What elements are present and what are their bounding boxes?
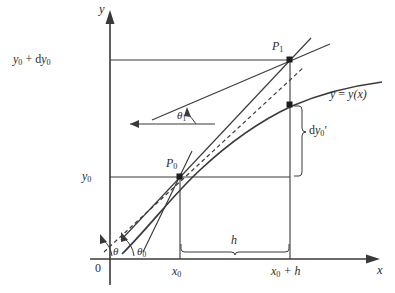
y-tick-label-lower: y0	[82, 170, 91, 184]
secant-line-p0-p1	[121, 38, 311, 240]
angle-theta-zero-sub: 0	[142, 250, 146, 259]
brace-label-dy-zero-prime: dy0′	[309, 124, 327, 138]
origin-label: 0	[95, 262, 101, 274]
point-marker-q	[287, 102, 293, 108]
y-axis-arrowhead	[106, 10, 115, 24]
y-axis-label: y	[99, 3, 105, 16]
angle-theta-one-sub: 1	[182, 114, 186, 123]
angle-label-theta-zero: θ0	[137, 246, 146, 259]
brace-dy-prime: ′	[324, 123, 327, 137]
point-label-p0: P0	[166, 157, 177, 171]
point-label-p0-sub: 0	[173, 162, 177, 171]
y-tick-lower-sub: 0	[87, 175, 91, 184]
curve-y-of-x	[122, 82, 382, 254]
y-tick-upper-d-sub: 0	[47, 58, 51, 67]
curve-label-rhs: y(x)	[348, 87, 367, 101]
x-tick-right-suffix: + h	[280, 264, 300, 278]
point-label-p1-sub: 1	[279, 45, 283, 54]
angle-label-theta: θ	[113, 246, 118, 257]
brace-dy-zero-prime	[294, 106, 306, 176]
y-tick-label-upper: y0 + dy0	[13, 53, 51, 67]
diagram-canvas	[0, 0, 395, 293]
x-tick-label-left: x0	[172, 265, 181, 279]
curve-label-eq: =	[335, 87, 348, 101]
x-tick-left-sub: 0	[177, 270, 181, 279]
x-tick-label-right: x0 + h	[271, 265, 301, 279]
y-tick-upper-operator: +	[22, 52, 35, 66]
angle-theta-glyph: θ	[113, 245, 118, 257]
point-marker-p0	[177, 174, 183, 180]
brace-label-h: h	[231, 234, 237, 246]
angle-label-theta-one: θ1	[177, 110, 186, 123]
x-axis-label: x	[377, 264, 383, 277]
dashed-tangent-line-theta	[104, 68, 303, 252]
theta-one-reference-arrowhead	[130, 120, 139, 128]
calculus-diagram-figure: y x 0 y0 + dy0 y0 x0 x0 + h P0 P1 θ θ0 θ…	[0, 0, 395, 293]
point-marker-p1	[287, 57, 293, 63]
point-label-p1: P1	[272, 40, 283, 54]
curve-label: y = y(x)	[330, 88, 367, 100]
